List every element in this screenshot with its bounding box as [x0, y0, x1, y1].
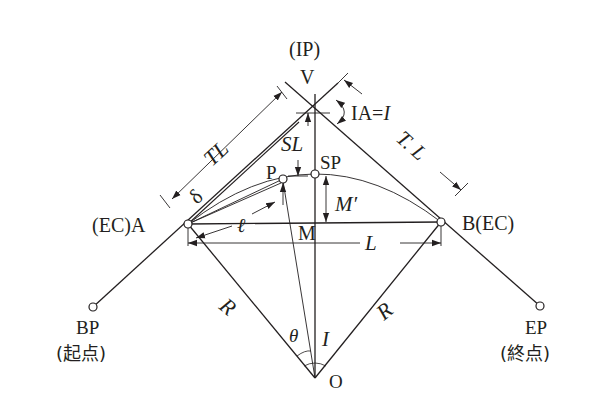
label-tl-left: TL	[198, 136, 233, 171]
points	[89, 170, 544, 311]
label-ell: ℓ	[237, 214, 246, 236]
label-sp: SP	[320, 152, 341, 173]
point-sp	[311, 170, 319, 178]
label-ia: IA=I	[351, 102, 391, 124]
label-sl: SL	[281, 132, 303, 156]
label-i-center: I	[321, 327, 330, 351]
label-m: M	[298, 222, 316, 244]
radius-left	[188, 224, 315, 378]
label-p: P	[266, 162, 277, 183]
point-a	[184, 220, 192, 228]
point-p	[279, 175, 287, 183]
point-ep	[536, 302, 544, 310]
label-b: B(EC)	[462, 212, 514, 235]
label-o: O	[329, 371, 343, 392]
label-r-right: R	[370, 297, 398, 326]
label-ep: EP	[525, 317, 547, 338]
label-l: L	[364, 231, 377, 255]
point-b	[437, 218, 445, 226]
label-r-left: R	[214, 292, 242, 321]
label-ep-jp: (終点)	[500, 343, 550, 364]
curve-diagram: (IP) V IA=I TL T. L SL δ P SP M′ ℓ M L (…	[0, 0, 612, 413]
tangent-left-line	[93, 83, 338, 307]
point-bp	[89, 303, 97, 311]
label-tl-right: T. L	[392, 126, 432, 165]
radius-to-p	[283, 181, 315, 378]
label-bp-jp: (起点)	[56, 343, 106, 364]
label-theta: θ	[289, 325, 298, 346]
ia-angle-arc	[336, 100, 344, 124]
label-bp: BP	[76, 317, 99, 338]
theta-arc	[297, 351, 311, 356]
label-m-prime: M′	[334, 192, 357, 216]
label-v: V	[300, 66, 315, 88]
diagram-canvas: (IP) V IA=I TL T. L SL δ P SP M′ ℓ M L (…	[0, 0, 612, 413]
tangent-right-line	[285, 82, 540, 306]
label-a: (EC)A	[92, 214, 146, 237]
tangent-lines	[93, 82, 540, 307]
label-ip: (IP)	[289, 38, 320, 61]
label-delta: δ	[184, 184, 208, 208]
